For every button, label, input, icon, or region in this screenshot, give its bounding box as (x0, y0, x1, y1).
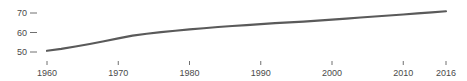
x-tick-label: 1990 (251, 68, 271, 78)
x-tick-label: 1970 (108, 68, 128, 78)
y-axis-tick-labels: 506070 (17, 8, 27, 57)
x-tick-label: 1960 (37, 68, 57, 78)
x-tick-label: 2000 (322, 68, 342, 78)
y-tick-label: 50 (17, 47, 27, 57)
x-axis-tick-marks (47, 61, 446, 65)
y-axis-tick-marks (30, 13, 37, 52)
x-axis-tick-labels: 1960197019801990200020102016 (37, 68, 456, 78)
chart-canvas: 506070 1960197019801990200020102016 (0, 0, 467, 81)
x-tick-label: 2010 (393, 68, 413, 78)
x-tick-label: 2016 (436, 68, 456, 78)
x-tick-label: 1980 (179, 68, 199, 78)
line-chart: 506070 1960197019801990200020102016 (0, 0, 467, 81)
data-series-line (47, 11, 446, 51)
y-tick-label: 60 (17, 28, 27, 38)
y-tick-label: 70 (17, 8, 27, 18)
